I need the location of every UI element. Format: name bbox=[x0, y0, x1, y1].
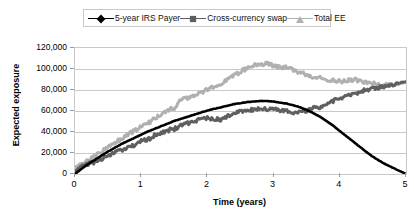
y-tick-label: 120,000 bbox=[19, 42, 67, 52]
x-tick-label: 2 bbox=[196, 179, 216, 189]
legend-item-total-ee: Total EE bbox=[287, 14, 346, 23]
y-tick-label: 40,000 bbox=[19, 126, 67, 136]
square-marker-icon bbox=[190, 15, 196, 21]
x-tick-label: 3 bbox=[263, 179, 283, 189]
y-tick-label: 20,000 bbox=[19, 147, 67, 157]
y-tick-label: 100,000 bbox=[19, 63, 67, 73]
diamond-marker-icon bbox=[97, 14, 106, 23]
legend-label-total-ee: Total EE bbox=[313, 14, 346, 23]
series-line-total-ee bbox=[75, 62, 406, 167]
triangle-marker-icon bbox=[296, 16, 304, 23]
chart-legend: 5-year IRS Payer Cross-currency swap Tot… bbox=[83, 9, 331, 27]
x-tick-label: 4 bbox=[329, 179, 349, 189]
x-tick-label: 0 bbox=[64, 179, 84, 189]
x-axis-title: Time (years) bbox=[74, 197, 405, 207]
legend-item-cross-currency-swap: Cross-currency swap bbox=[180, 14, 287, 23]
series-line-cross-currency-swap bbox=[75, 82, 406, 171]
x-tick-label: 1 bbox=[130, 179, 150, 189]
legend-item-irs-payer: 5-year IRS Payer bbox=[88, 14, 180, 23]
legend-swatch-irs-payer bbox=[88, 14, 114, 23]
legend-swatch-cross-currency-swap bbox=[180, 14, 206, 23]
legend-label-irs-payer: 5-year IRS Payer bbox=[114, 14, 180, 23]
y-tick-label: 60,000 bbox=[19, 105, 67, 115]
x-tick-label: 5 bbox=[395, 179, 414, 189]
legend-swatch-total-ee bbox=[287, 14, 313, 23]
plot-area bbox=[74, 47, 407, 175]
y-tick-label: 80,000 bbox=[19, 84, 67, 94]
legend-label-cross-currency-swap: Cross-currency swap bbox=[206, 14, 287, 23]
x-axis-tick-labels: 012345 bbox=[0, 179, 414, 193]
expected-exposure-chart: 5-year IRS Payer Cross-currency swap Tot… bbox=[0, 0, 414, 219]
plot-svg bbox=[75, 48, 406, 174]
y-tick-label: 0 bbox=[19, 168, 67, 178]
